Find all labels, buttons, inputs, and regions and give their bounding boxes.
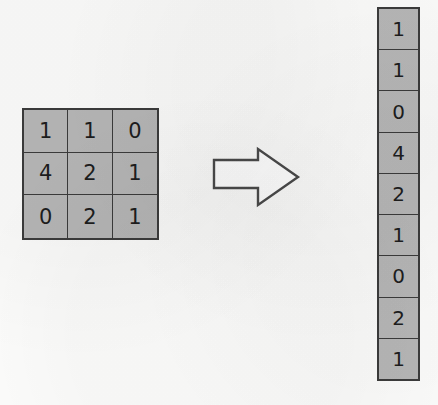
- vector-cell: 2: [379, 298, 418, 339]
- vector-cell: 4: [379, 133, 418, 174]
- right-arrow-icon: [210, 145, 302, 209]
- vector-cell: 0: [379, 256, 418, 297]
- vector-cell: 1: [379, 9, 418, 50]
- output-column-vector: 1 1 0 4 2 1 0 2 1: [377, 7, 420, 381]
- vector-cell: 0: [379, 91, 418, 132]
- vector-cell: 1: [379, 215, 418, 256]
- matrix-cell: 4: [24, 153, 68, 196]
- matrix-cell: 0: [24, 195, 68, 238]
- matrix-cell: 2: [68, 153, 112, 196]
- vector-cell: 1: [379, 50, 418, 91]
- matrix-cell: 1: [113, 195, 157, 238]
- matrix-cell: 1: [113, 153, 157, 196]
- matrix-cell: 1: [24, 110, 68, 153]
- vector-cell: 1: [379, 339, 418, 379]
- figure-canvas: 1 1 0 4 2 1 0 2 1 1 1 0 4 2 1 0 2 1: [0, 0, 438, 405]
- vector-cell: 2: [379, 174, 418, 215]
- matrix-cell: 0: [113, 110, 157, 153]
- matrix-cell: 1: [68, 110, 112, 153]
- input-matrix: 1 1 0 4 2 1 0 2 1: [22, 108, 159, 240]
- matrix-cell: 2: [68, 195, 112, 238]
